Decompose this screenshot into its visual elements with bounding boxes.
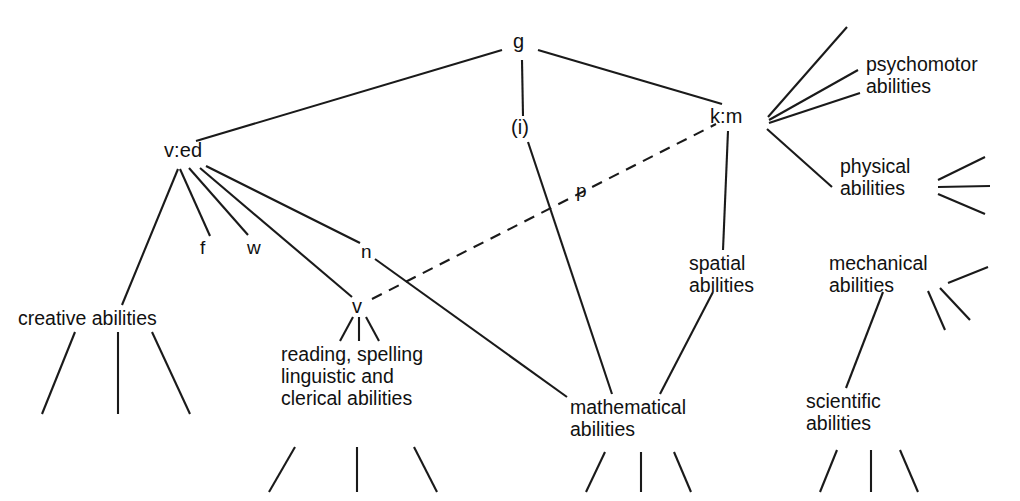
label-reading-abilities-line2: linguistic and [281,365,394,387]
edge-km-to-psychomotor-2 [769,70,858,120]
edge-v-to-reading-right [366,317,379,341]
edge-label-p: p [576,181,587,201]
node-g: g [513,31,524,53]
stub-mechanical-1 [948,267,988,283]
node-i: (i) [511,117,529,139]
node-km: k:m [710,106,743,128]
label-psychomotor-abilities-line1: psychomotor [866,53,978,75]
edge-km-to-psychomotor-1 [768,27,847,117]
label-mechanical-abilities-line1: mechanical [829,252,928,274]
leaf-mathematical-3 [674,452,691,492]
stub-mechanical-3 [928,291,945,330]
leaf-scientific-3 [900,450,918,492]
edge-km-to-spatial [723,131,728,250]
leaf-creative-1 [42,332,75,414]
label-reading-abilities-line3: clerical abilities [281,387,412,409]
node-v: v [352,296,362,318]
label-scientific-abilities-line1: scientific [806,390,881,412]
label-spatial-abilities-line2: abilities [689,274,754,296]
node-ved: v:ed [164,140,202,162]
edge-spatial-to-mathematical [660,292,713,394]
label-mathematical-abilities-line1: mathematical [570,396,686,418]
edge-ved-n-to-mathematical [206,166,360,243]
edge-label-w: w [247,238,261,258]
edge-km-to-psychomotor-3 [769,93,860,123]
leaf-scientific-1 [820,450,837,492]
edge-mechanical-to-scientific [846,292,883,388]
leaf-reading-1 [269,447,295,492]
stub-physical-1 [938,157,985,180]
label-scientific-abilities-line2: abilities [806,412,871,434]
edge-g-to-ved [196,50,502,141]
label-physical-abilities-line2: abilities [840,177,905,199]
edge-label-n: n [361,242,372,262]
stub-physical-3 [938,194,985,214]
edge-v-to-reading-left [340,317,353,341]
edge-ved-to-creative [122,169,178,305]
stub-mechanical-2 [940,288,970,320]
edge-km-to-physical [767,129,832,187]
label-mechanical-abilities-line2: abilities [829,274,894,296]
edge-g-to-km [538,50,722,104]
label-reading-abilities-line1: reading, spelling [281,343,423,365]
edge-ved-to-v [200,168,352,297]
leaf-creative-3 [152,332,190,414]
edge-n-to-mathematical [375,259,567,397]
edge-i-to-mathematical [528,142,612,394]
leaf-mathematical-1 [586,452,605,492]
label-psychomotor-abilities-line2: abilities [866,75,931,97]
stub-physical-2 [938,186,990,187]
label-creative-abilities: creative abilities [18,307,157,329]
label-mathematical-abilities-line2: abilities [570,418,635,440]
label-physical-abilities-line1: physical [840,155,910,177]
edge-ved-f [180,169,210,236]
ability-hierarchy-diagram: g (i) v:ed k:m v f w n p creative abilit… [0,0,1020,501]
edge-g-to-i [522,60,523,116]
edge-p-v-to-km [372,124,716,299]
leaf-reading-3 [414,447,437,492]
label-spatial-abilities-line1: spatial [689,252,745,274]
edge-label-f: f [200,238,205,258]
